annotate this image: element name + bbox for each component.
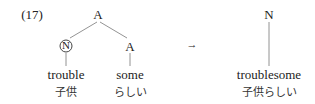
word-troublesome: troublesome bbox=[237, 68, 301, 81]
gloss-rashii: らしい bbox=[114, 87, 147, 98]
edge-root-to-a bbox=[100, 22, 127, 38]
gloss-kodomo: 子供 bbox=[55, 87, 77, 98]
gloss-kodomorashii: 子供らしい bbox=[242, 87, 297, 98]
left-child-label: N bbox=[62, 40, 70, 51]
left-tree-root: A bbox=[93, 8, 102, 21]
edge-root-to-n bbox=[70, 22, 97, 38]
arrow-icon: → bbox=[187, 39, 198, 50]
word-some: some bbox=[116, 68, 143, 81]
right-tree-root: N bbox=[264, 8, 273, 21]
right-child-label: A bbox=[125, 40, 134, 53]
word-trouble: trouble bbox=[48, 68, 85, 81]
example-number: (17) bbox=[21, 8, 43, 21]
